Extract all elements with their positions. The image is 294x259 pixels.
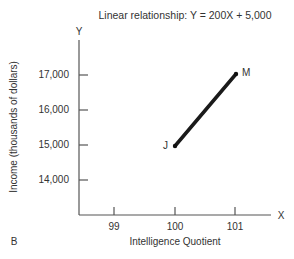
y-tick-label: 15,000 xyxy=(38,139,69,150)
x-ticks: 99 100 101 xyxy=(108,207,243,232)
x-axis-letter: X xyxy=(278,210,285,221)
chart-title: Linear relationship: Y = 200X + 5,000 xyxy=(99,9,272,21)
point-label-j: J xyxy=(163,140,168,151)
point-j xyxy=(173,144,177,148)
y-axis-label: Income (thousands of dollars) xyxy=(8,61,19,193)
x-tick-label: 100 xyxy=(167,221,184,232)
y-ticks: 17,000 16,000 15,000 14,000 xyxy=(38,69,88,185)
point-label-m: M xyxy=(242,67,250,78)
y-tick-label: 16,000 xyxy=(38,104,69,115)
x-tick-label: 101 xyxy=(227,221,244,232)
x-axis-label: Intelligence Quotient xyxy=(129,236,220,247)
y-tick-label: 17,000 xyxy=(38,69,69,80)
chart: Linear relationship: Y = 200X + 5,000 Y … xyxy=(0,0,294,259)
x-tick-label: 99 xyxy=(108,221,120,232)
panel-label: B xyxy=(11,236,18,247)
point-m xyxy=(234,72,238,76)
data-line xyxy=(175,74,236,146)
y-axis-letter: Y xyxy=(76,26,83,37)
y-tick-label: 14,000 xyxy=(38,174,69,185)
